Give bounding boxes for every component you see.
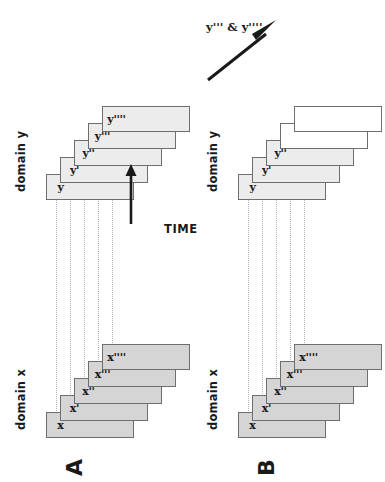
figure-canvas: A domain x domain y x x' x'' x''' x'''' <box>0 0 385 482</box>
panel-a-domain-y-stack: y y' y'' y''' y'''' <box>6 0 184 200</box>
time-axis-label: TIME <box>164 222 198 236</box>
panel-a-letter: A <box>62 459 87 476</box>
card-label: x'''' <box>299 351 318 364</box>
time-arrow-icon <box>124 164 138 224</box>
panel-b-letter: B <box>254 459 279 476</box>
card-label: y'''' <box>107 113 125 126</box>
card-y-4-unknown[interactable] <box>294 106 382 132</box>
panel-b-callout: y''' & y'''' <box>204 0 278 84</box>
panel-a: A domain x domain y x x' x'' x''' x'''' <box>6 0 184 482</box>
panel-b-callout-label: y''' & y'''' <box>206 20 262 34</box>
time-axis: TIME <box>124 164 154 224</box>
card-x-4[interactable]: x'''' <box>294 344 382 370</box>
panel-b: B domain x domain y x x' x'' x''' x'''' <box>198 0 376 482</box>
panel-b-domain-x-stack: x x' x'' x''' x'''' <box>198 228 376 438</box>
card-y-4[interactable]: y'''' <box>102 106 190 132</box>
panel-a-domain-x-stack: x x' x'' x''' x'''' <box>6 228 184 438</box>
card-x-4[interactable]: x'''' <box>102 344 190 370</box>
card-label: x'''' <box>107 351 126 364</box>
